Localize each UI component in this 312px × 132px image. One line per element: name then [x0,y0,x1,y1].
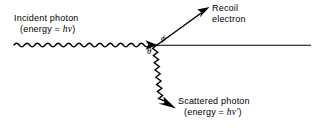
scattered-photon-label: Scattered photon [178,96,250,107]
scattered-energy-prefix: (energy = [184,107,227,117]
angle-theta-label: θ [147,46,151,56]
incident-photon-ray [14,40,158,50]
scattered-energy-suffix: ) [238,107,241,117]
scattered-photon-energy-label: (energy = hν') [184,107,242,118]
incident-photon-wave [14,43,149,47]
recoil-electron-arrowhead [197,7,209,18]
angle-phi-label: ϕ [161,33,166,43]
recoil-electron-label-line2: electron [212,14,246,25]
incident-energy-prefix: (energy = [20,24,63,34]
incident-photon-energy-label: (energy = hν) [20,24,75,35]
scattered-photon-arrowhead [158,97,176,109]
recoil-electron-label-line1: Recoil [212,3,238,14]
scattered-photon-wave [153,45,165,101]
incident-energy-suffix: ) [72,24,75,34]
compton-scattering-figure: Incident photon (energy = hν) Recoil ele… [0,0,312,132]
scattered-photon-ray [153,45,176,109]
incident-photon-label: Incident photon [14,13,79,24]
